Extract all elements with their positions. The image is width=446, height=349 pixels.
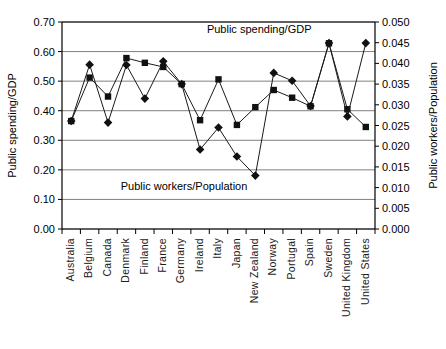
data-point-diamond xyxy=(269,69,278,78)
y-axis-right-tick-label: 0.050 xyxy=(382,16,410,28)
x-axis-category-label: Italy xyxy=(211,238,223,259)
y-axis-right-tick-label: 0.005 xyxy=(382,202,410,214)
x-axis-category-label: Sweden xyxy=(322,238,334,278)
y-axis-left-tick-label: 0.40 xyxy=(34,105,55,117)
data-point-square xyxy=(197,117,203,123)
y-axis-left-tick-label: 0.70 xyxy=(34,16,55,28)
x-axis-category-label: Germany xyxy=(174,238,186,284)
annotation-public-spending: Public spending/GDP xyxy=(207,23,312,35)
x-axis-category-label: Belgium xyxy=(82,238,94,278)
x-axis-category-label: Ireland xyxy=(193,238,205,272)
line-chart: 0.000.100.200.300.400.500.600.700.0000.0… xyxy=(0,0,446,349)
data-point-square xyxy=(252,104,258,110)
data-point-diamond xyxy=(141,94,150,103)
data-point-square xyxy=(123,55,129,61)
annotation-public-workers: Public workers/Population xyxy=(121,180,248,192)
y-axis-right-tick-label: 0.040 xyxy=(382,57,410,69)
data-point-diamond xyxy=(85,60,94,69)
x-axis-category-label: Spain xyxy=(303,238,315,266)
y-axis-right-tick-label: 0.045 xyxy=(382,37,410,49)
data-point-square xyxy=(86,74,92,80)
y-axis-right-tick-label: 0.020 xyxy=(382,140,410,152)
data-point-square xyxy=(142,60,148,66)
y-axis-right-title: Public workers/Population xyxy=(427,62,439,189)
x-axis-category-label: Denmark xyxy=(119,238,131,283)
y-axis-right-tick-label: 0.025 xyxy=(382,120,410,132)
chart-container: 0.000.100.200.300.400.500.600.700.0000.0… xyxy=(0,0,446,349)
y-axis-left-tick-label: 0.20 xyxy=(34,164,55,176)
y-axis-left-tick-label: 0.30 xyxy=(34,134,55,146)
y-axis-left-tick-label: 0.50 xyxy=(34,75,55,87)
y-axis-right-tick-label: 0.015 xyxy=(382,161,410,173)
y-axis-left-tick-label: 0.00 xyxy=(34,223,55,235)
x-axis-category-label: United States xyxy=(359,238,371,305)
data-point-square xyxy=(363,124,369,130)
y-axis-left-title: Public spending/GDP xyxy=(6,73,18,178)
data-point-square xyxy=(289,95,295,101)
x-axis-category-label: New Zealand xyxy=(248,238,260,303)
y-axis-right-tick-label: 0.030 xyxy=(382,99,410,111)
x-axis-category-label: United Kingdom xyxy=(340,238,352,317)
x-axis-category-label: Norway xyxy=(266,238,278,276)
x-axis-category-label: Canada xyxy=(101,238,113,277)
data-point-diamond xyxy=(122,61,131,70)
y-axis-right-tick-label: 0.000 xyxy=(382,223,410,235)
y-axis-left-tick-label: 0.10 xyxy=(34,193,55,205)
x-axis-category-label: France xyxy=(156,238,168,272)
x-axis-category-label: Portugal xyxy=(285,238,297,280)
y-axis-right-tick-label: 0.035 xyxy=(382,78,410,90)
series-line-spending xyxy=(71,43,366,127)
x-axis-category-label: Japan xyxy=(230,238,242,268)
y-axis-right-tick-label: 0.010 xyxy=(382,182,410,194)
data-point-diamond xyxy=(343,112,352,121)
data-point-square xyxy=(234,122,240,128)
data-point-square xyxy=(215,76,221,82)
data-point-diamond xyxy=(288,76,297,85)
series-line-workers xyxy=(71,43,366,175)
y-axis-left-tick-label: 0.60 xyxy=(34,46,55,58)
data-point-diamond xyxy=(104,118,113,127)
data-point-square xyxy=(105,93,111,99)
data-point-diamond xyxy=(361,39,370,48)
x-axis-category-label: Finland xyxy=(138,238,150,275)
x-axis-category-label: Australia xyxy=(64,238,76,282)
